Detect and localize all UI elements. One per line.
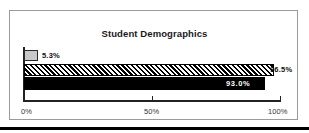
chart-frame: Student Demographics 5.3% 96.5% 93.0% 0%… [9,10,298,120]
axis-tick-0 [23,96,24,101]
bar-label-series-1: 5.3% [42,51,60,60]
bar-label-series-2: 96.5% [270,65,292,74]
plot-area: 5.3% 96.5% 93.0% 0% 50% 100% [23,47,285,105]
bar-series-1 [24,50,38,61]
axis-tick-50 [152,96,153,101]
screenshot-root: Student Demographics 5.3% 96.5% 93.0% 0%… [0,0,309,133]
axis-tick-100 [280,96,281,101]
bottom-divider-rule [0,127,309,130]
axis-label-100: 100% [268,107,288,116]
axis-label-50: 50% [144,107,159,116]
bar-series-2 [24,64,274,76]
axis-label-0: 0% [21,107,32,116]
bar-label-series-3: 93.0% [226,79,250,88]
chart-title: Student Demographics [10,28,299,39]
